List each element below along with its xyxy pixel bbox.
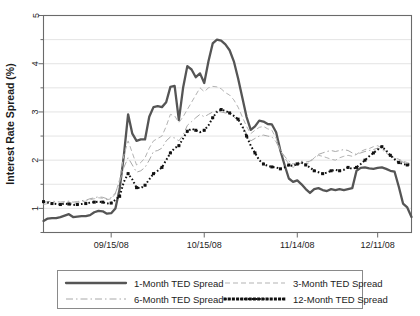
legend-swatch-marker: [282, 298, 285, 301]
series-marker: [203, 129, 206, 132]
x-tick-label: 12/11/08: [360, 240, 394, 250]
series-marker: [169, 151, 172, 154]
series-marker: [253, 151, 256, 154]
series-line: [44, 86, 412, 204]
series-marker: [177, 144, 180, 147]
legend-swatch-marker: [257, 298, 260, 301]
series-marker: [76, 203, 79, 206]
x-tick-label: 11/14/08: [280, 240, 314, 250]
x-tick-label: 09/15/08: [94, 240, 129, 250]
legend-swatch-marker: [232, 298, 235, 301]
series-marker: [211, 116, 214, 119]
y-tick-label: 2: [31, 158, 41, 163]
series-line: [44, 110, 412, 205]
legend: 1-Month TED Spread3-Month TED Spread6-Mo…: [58, 271, 388, 309]
series-marker: [237, 118, 240, 121]
series-marker: [330, 169, 333, 172]
legend-swatch-marker: [266, 298, 269, 301]
series-marker: [279, 167, 282, 170]
legend-swatch-marker: [261, 298, 264, 301]
series-marker: [262, 163, 265, 166]
legend-swatch-marker: [270, 298, 273, 301]
series-marker: [101, 201, 104, 204]
series-marker: [287, 163, 290, 166]
series-line: [44, 111, 412, 203]
legend-swatch-marker: [240, 298, 243, 301]
series-marker: [160, 166, 163, 169]
series-marker: [296, 163, 299, 166]
legend-item[interactable]: 6-Month TED Spread: [66, 294, 224, 305]
series-marker: [93, 201, 96, 204]
y-axis-title: Interest Rate Spread (%): [4, 63, 16, 184]
series-marker: [372, 151, 375, 154]
series-marker: [194, 129, 197, 132]
series-marker: [42, 200, 45, 203]
x-axis: 09/15/0810/15/0811/14/0812/11/08: [94, 233, 395, 250]
series-marker: [406, 163, 409, 166]
legend-swatch-marker: [278, 298, 281, 301]
series-line: [44, 40, 412, 221]
series-marker: [152, 172, 155, 175]
series-marker: [110, 202, 113, 205]
series-marker: [245, 135, 248, 138]
series-marker: [118, 195, 121, 198]
series-marker: [321, 172, 324, 175]
series-marker: [67, 203, 70, 206]
y-tick-label: 3: [31, 109, 41, 114]
legend-swatch-marker: [253, 298, 256, 301]
legend-label: 3-Month TED Spread: [293, 278, 383, 289]
series-marker: [313, 169, 316, 172]
series-marker: [363, 159, 366, 162]
series-marker: [338, 169, 341, 172]
legend-swatch-marker: [236, 298, 239, 301]
series-marker: [135, 186, 138, 189]
legend-swatch-marker: [224, 298, 227, 301]
chart-svg: 12345 Interest Rate Spread (%) 09/15/081…: [0, 0, 420, 316]
series-marker: [144, 184, 147, 187]
y-tick-label: 5: [31, 13, 41, 18]
series-marker: [127, 172, 130, 175]
series-marker: [186, 130, 189, 133]
y-axis-gridlines: [44, 40, 412, 209]
series-marker: [355, 166, 358, 169]
y-tick-label: 4: [31, 61, 41, 66]
legend-swatch-marker: [274, 298, 277, 301]
legend-swatch-marker: [249, 298, 252, 301]
series-marker: [220, 108, 223, 111]
series-marker: [50, 202, 53, 205]
series-marker: [347, 166, 350, 169]
x-tick-label: 10/15/08: [187, 240, 222, 250]
series-marker: [304, 163, 307, 166]
series-marker: [84, 202, 87, 205]
series-marker: [228, 111, 231, 114]
data-series-group: [42, 40, 412, 221]
legend-item[interactable]: 12-Month TED Spread: [224, 294, 388, 305]
series-marker: [397, 161, 400, 164]
legend-label: 12-Month TED Spread: [293, 294, 388, 305]
legend-item[interactable]: 1-Month TED Spread: [66, 278, 224, 289]
series-marker: [380, 145, 383, 148]
series-marker: [389, 154, 392, 157]
legend-label: 6-Month TED Spread: [134, 294, 224, 305]
y-tick-label: 1: [31, 206, 41, 211]
y-axis: 12345 Interest Rate Spread (%): [4, 13, 44, 233]
series-marker: [59, 203, 62, 206]
series-marker: [270, 165, 273, 168]
legend-swatch-marker: [245, 298, 248, 301]
legend-swatch-marker: [228, 298, 231, 301]
legend-label: 1-Month TED Spread: [134, 278, 224, 289]
legend-item[interactable]: 3-Month TED Spread: [225, 278, 383, 289]
chart-figure: 12345 Interest Rate Spread (%) 09/15/081…: [0, 0, 420, 316]
